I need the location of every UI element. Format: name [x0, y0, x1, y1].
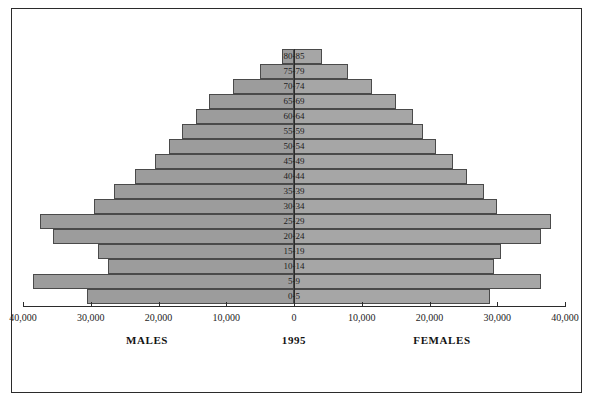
x-axis-tick [430, 302, 431, 307]
pyramid-row: 55-59 [12, 124, 583, 139]
pyramid-row: 10-14 [12, 259, 583, 274]
x-axis-tick [226, 302, 227, 307]
bar-male [87, 289, 294, 304]
pyramid-row: 40-44 [12, 169, 583, 184]
pyramid-row: 50-54 [12, 139, 583, 154]
pyramid-row: 15-19 [12, 244, 583, 259]
axis-caption-males: MALES [77, 334, 217, 346]
x-axis-tick-label: 20,000 [395, 312, 465, 323]
center-axis-line [294, 49, 295, 304]
bar-female [294, 244, 501, 259]
x-axis-tick-label: 0 [259, 312, 329, 323]
bar-female [294, 229, 541, 244]
pyramid-row: 80-85 [12, 49, 583, 64]
pyramid-row: 45-49 [12, 154, 583, 169]
axis-caption-year: 1995 [224, 334, 364, 346]
x-axis-tick [497, 302, 498, 307]
bar-male [33, 274, 294, 289]
x-axis-tick-label: 30,000 [56, 312, 126, 323]
x-axis-tick-label: 10,000 [327, 312, 397, 323]
pyramid-row: 5-9 [12, 274, 583, 289]
bar-female [294, 214, 551, 229]
bar-male [40, 214, 294, 229]
x-axis-tick-label: 40,000 [530, 312, 594, 323]
pyramid-row: 65-69 [12, 94, 583, 109]
x-axis-tick [91, 302, 92, 307]
pyramid-row: 60-64 [12, 109, 583, 124]
x-axis: 40,00030,00020,00010,000010,00020,00030,… [12, 306, 583, 308]
x-axis-tick [159, 302, 160, 307]
population-pyramid-plot: 80-8575-7970-7465-6960-6455-5950-5445-49… [12, 49, 583, 304]
x-axis-tick-label: 10,000 [191, 312, 261, 323]
x-axis-tick-label: 20,000 [124, 312, 194, 323]
chart-frame: 80-8575-7970-7465-6960-6455-5950-5445-49… [11, 8, 582, 393]
pyramid-row: 35-39 [12, 184, 583, 199]
bar-female [294, 274, 541, 289]
x-axis-tick-label: 40,000 [0, 312, 58, 323]
axis-caption-females: FEMALES [372, 334, 512, 346]
x-axis-tick-label: 30,000 [462, 312, 532, 323]
x-axis-tick [565, 302, 566, 307]
pyramid-row: 25-29 [12, 214, 583, 229]
x-axis-tick [23, 302, 24, 307]
pyramid-row: 20-24 [12, 229, 583, 244]
bar-male [53, 229, 294, 244]
x-axis-tick [362, 302, 363, 307]
pyramid-row: 75-79 [12, 64, 583, 79]
pyramid-row: 70-74 [12, 79, 583, 94]
bar-female [294, 199, 497, 214]
pyramid-row: 30-34 [12, 199, 583, 214]
